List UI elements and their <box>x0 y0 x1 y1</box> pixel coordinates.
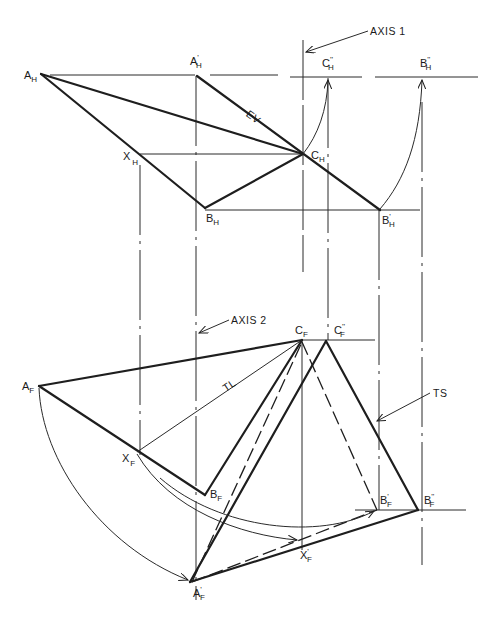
rotation-arc-c <box>303 80 328 154</box>
arc-a-to-a1 <box>39 388 188 580</box>
axis-2-leader <box>199 320 229 333</box>
label-a-f: AF <box>22 380 34 395</box>
top-view-labels: AXIS 1 EV AH A'H C''H B''H XH CH BH B'H <box>24 25 431 229</box>
label-c2-h: C''H <box>322 55 334 72</box>
edge-c2-b2-front <box>326 341 418 510</box>
rotation-arc-b <box>380 80 422 209</box>
label-x-f: XF <box>122 452 135 468</box>
label-b1-f: B'F <box>380 492 392 509</box>
front-view-labels: AXIS 2 TS TL CF C''F AF XF BF B'F B''F X… <box>22 314 447 602</box>
axis-1-label: AXIS 1 <box>370 25 406 37</box>
axis-2-label: AXIS 2 <box>231 314 267 326</box>
ts-label: TS <box>433 387 447 399</box>
label-b2-f: B''F <box>424 492 435 509</box>
descriptive-geometry-drawing: AXIS 1 EV AH A'H C''H B''H XH CH BH B'H <box>0 0 494 630</box>
tl-label: TL <box>220 376 238 393</box>
label-b2-h: B''H <box>420 55 431 72</box>
label-c-f: CF <box>295 324 308 339</box>
front-view <box>39 320 466 582</box>
label-b-f: BF <box>210 488 222 503</box>
edge-a-c-top <box>41 74 303 154</box>
edge-b-c-top <box>205 154 303 208</box>
edge-b-c-front <box>205 340 302 495</box>
edge-a-b-top <box>41 74 205 208</box>
true-length-line <box>137 340 302 452</box>
axis-1-leader <box>306 31 368 52</box>
label-a-h: AH <box>24 69 37 84</box>
edge-a-b-front <box>39 386 205 495</box>
label-b-h: BH <box>206 212 219 227</box>
label-b1-h: B'H <box>382 212 395 229</box>
label-a1-f: A'F <box>193 585 205 602</box>
label-x1-f: X'F <box>300 547 312 564</box>
edge-a-c-front <box>39 340 302 386</box>
label-a1-h: A'H <box>190 53 202 70</box>
edge-view-line <box>197 76 380 210</box>
label-c2-f: C''F <box>334 322 345 339</box>
